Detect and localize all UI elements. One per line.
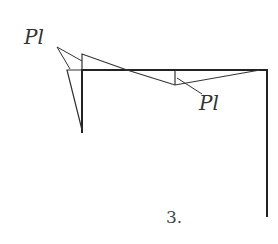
- figure-number: 3.: [166, 207, 182, 227]
- label-left-moment: Pl: [23, 25, 44, 49]
- left-column-moment-triangle: [67, 70, 82, 130]
- lower-beam-moment-triangle: [127, 70, 260, 85]
- label-right-moment: Pl: [198, 91, 219, 115]
- frame-diagram: Pl Pl 3.: [0, 0, 278, 244]
- upper-beam-moment-triangle: [82, 54, 127, 70]
